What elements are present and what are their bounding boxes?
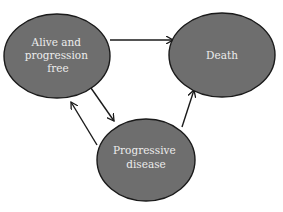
edge-alive-to-progressive-arrow: [91, 88, 114, 121]
edge-progressive-to-alive-arrow: [71, 102, 97, 145]
node-death-label: Death: [206, 49, 238, 61]
node-alive-progression-free: Alive and progression free: [4, 14, 110, 98]
state-transition-diagram: Alive and progression free Death Progres…: [0, 0, 283, 212]
edge-progressive-to-death-arrow: [182, 90, 194, 127]
node-death: Death: [169, 13, 275, 97]
node-progressive-disease: Progressive disease: [97, 119, 195, 201]
